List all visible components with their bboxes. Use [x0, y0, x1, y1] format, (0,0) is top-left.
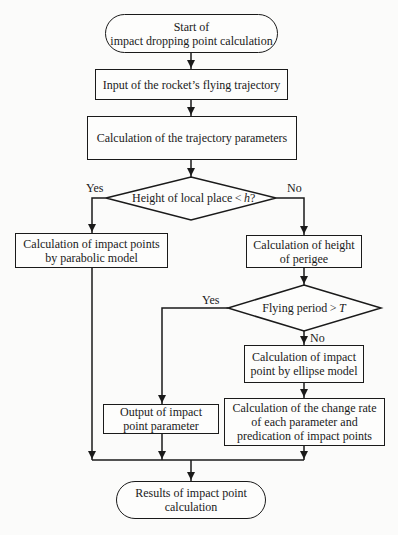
edge-label-d2-no: No: [310, 332, 325, 345]
edge-label-d2-yes: Yes: [202, 294, 219, 307]
trajectory-parameters-box: Calculation of the trajectory parameters: [87, 116, 297, 160]
change-rate-box: Calculation of the change rate of each p…: [224, 398, 385, 446]
edge-decision1-no: [276, 198, 304, 235]
decision-height-prefix: Height of local place <: [132, 191, 244, 205]
decision-period-var: T: [339, 301, 346, 315]
parabolic-model-box: Calculation of impact points by paraboli…: [15, 233, 168, 268]
perigee-height-box: Calculation of height of perigee: [246, 235, 362, 268]
decision-period-prefix: Flying period >: [262, 301, 339, 315]
output-parameter-box: Output of impact point parameter: [103, 404, 219, 434]
decision-height-suffix: ?: [250, 191, 255, 205]
ellipse-model-box: Calculation of impact point by ellipse m…: [244, 345, 364, 383]
edge-label-d1-yes: Yes: [86, 182, 103, 195]
edge-decision2-yes: [162, 308, 228, 404]
start-terminal: Start of impact dropping point calculati…: [105, 14, 278, 53]
input-trajectory-box: Input of the rocket’s flying trajectory: [95, 69, 288, 100]
results-terminal: Results of impact point calculation: [116, 481, 266, 519]
decision-period-label: Flying period > T: [254, 301, 354, 315]
flowchart-canvas: Start of impact dropping point calculati…: [0, 0, 398, 535]
edge-label-d1-no: No: [287, 182, 302, 195]
decision-height-label: Height of local place < h?: [132, 191, 252, 205]
